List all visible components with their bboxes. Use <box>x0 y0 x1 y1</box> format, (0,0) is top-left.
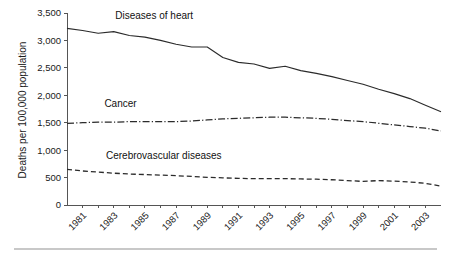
x-tick-label: 1985 <box>128 210 151 233</box>
x-tick-label: 1983 <box>97 210 120 233</box>
y-tick-label: 2,500 <box>37 62 61 73</box>
y-tick-label: 1,000 <box>37 145 61 156</box>
chart-figure: Deaths per 100,000 population 05001,0001… <box>0 0 451 263</box>
y-tick-label: 0 <box>56 199 61 210</box>
y-tick-label: 3,000 <box>37 35 61 46</box>
x-axis-ticks: 1981198319851987198919911993199519971999… <box>66 205 432 232</box>
y-tick-label: 1,500 <box>37 117 61 128</box>
y-axis-ticks: 05001,0001,5002,0002,5003,0003,500 <box>37 7 67 210</box>
y-tick-label: 500 <box>45 172 61 183</box>
x-tick-label: 1991 <box>222 210 245 233</box>
bottom-divider-rule <box>14 248 437 250</box>
series-annotation-diseases-of-heart: Diseases of heart <box>115 10 193 21</box>
x-tick-label: 1997 <box>315 210 338 233</box>
series-annotations: Diseases of heartCancerCerebrovascular d… <box>104 10 221 161</box>
x-tick-label: 1995 <box>284 210 307 233</box>
series-line-cancer <box>67 117 441 131</box>
x-tick-label: 1999 <box>346 210 369 233</box>
x-tick-label: 1987 <box>159 210 182 233</box>
x-tick-label: 1981 <box>66 210 89 233</box>
x-tick-label: 2001 <box>377 210 400 233</box>
series-line-cerebrovascular-diseases <box>67 169 441 186</box>
series-annotation-cerebrovascular-diseases: Cerebrovascular diseases <box>106 150 222 161</box>
y-axis-title: Deaths per 100,000 population <box>17 42 28 179</box>
series-annotation-cancer: Cancer <box>104 98 137 109</box>
x-tick-label: 1989 <box>190 210 213 233</box>
x-tick-label: 2003 <box>409 210 432 233</box>
line-chart: Deaths per 100,000 population 05001,0001… <box>0 0 451 263</box>
x-tick-label: 1993 <box>253 210 276 233</box>
y-axis-title-label: Deaths per 100,000 population <box>17 42 28 179</box>
y-tick-label: 2,000 <box>37 90 61 101</box>
y-tick-label: 3,500 <box>37 7 61 18</box>
